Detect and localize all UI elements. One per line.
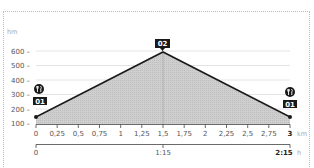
x-tick-total-distance: 3 <box>288 130 293 138</box>
x-tick: 1,25 <box>134 130 150 138</box>
time-tick: 1:15 <box>155 149 171 157</box>
time-tick: 0 <box>34 149 38 157</box>
y-axis-labels: 600 – 500 – 400 – 300 – 200 – 100 – <box>11 48 31 129</box>
y-tick-600: 600 – <box>11 48 31 56</box>
y-tick-500: 500 – <box>11 62 31 70</box>
time-axis-unit: h <box>297 149 301 157</box>
x-tick: 1 <box>118 130 122 138</box>
restaurant-icon <box>34 84 44 94</box>
x-tick: 2,25 <box>219 130 235 138</box>
waypoint-label: 02 <box>158 40 168 48</box>
x-axis-labels: 0 0,25 0,5 0,75 1 1,25 1,5 1,75 2 2,25 2… <box>34 130 293 138</box>
y-tick-200: 200 – <box>11 106 31 114</box>
y-axis-unit: hm <box>7 28 17 36</box>
y-tick-400: 400 – <box>11 77 31 85</box>
x-axis-unit: km <box>297 130 307 138</box>
x-tick: 2,75 <box>261 130 277 138</box>
x-axis-ticks <box>36 125 290 129</box>
waypoint-label: 01 <box>285 101 295 109</box>
x-tick: 1,75 <box>176 130 192 138</box>
time-axis-labels: 0 1:15 2:15 <box>34 149 293 157</box>
x-tick: 0 <box>34 130 38 138</box>
y-tick-300: 300 – <box>11 91 31 99</box>
x-tick: 0,25 <box>49 130 65 138</box>
waypoint-label: 01 <box>35 98 45 106</box>
restaurant-icon <box>285 87 295 97</box>
x-tick: 2,5 <box>242 130 253 138</box>
x-tick: 0,5 <box>73 130 84 138</box>
waypoint-peak[interactable]: 02 <box>155 39 170 51</box>
time-tick-total: 2:15 <box>275 149 293 157</box>
start-point <box>34 115 38 119</box>
time-axis-ticks <box>36 145 290 149</box>
x-tick: 2 <box>203 130 207 138</box>
end-point <box>288 115 292 119</box>
y-tick-100: 100 – <box>11 120 31 128</box>
elevation-chart: hm 600 – 500 – 400 – 300 – 200 – 100 – <box>0 0 314 168</box>
x-tick: 0,75 <box>92 130 108 138</box>
x-tick: 1,5 <box>157 130 168 138</box>
waypoint-end[interactable]: 01 <box>283 87 297 109</box>
